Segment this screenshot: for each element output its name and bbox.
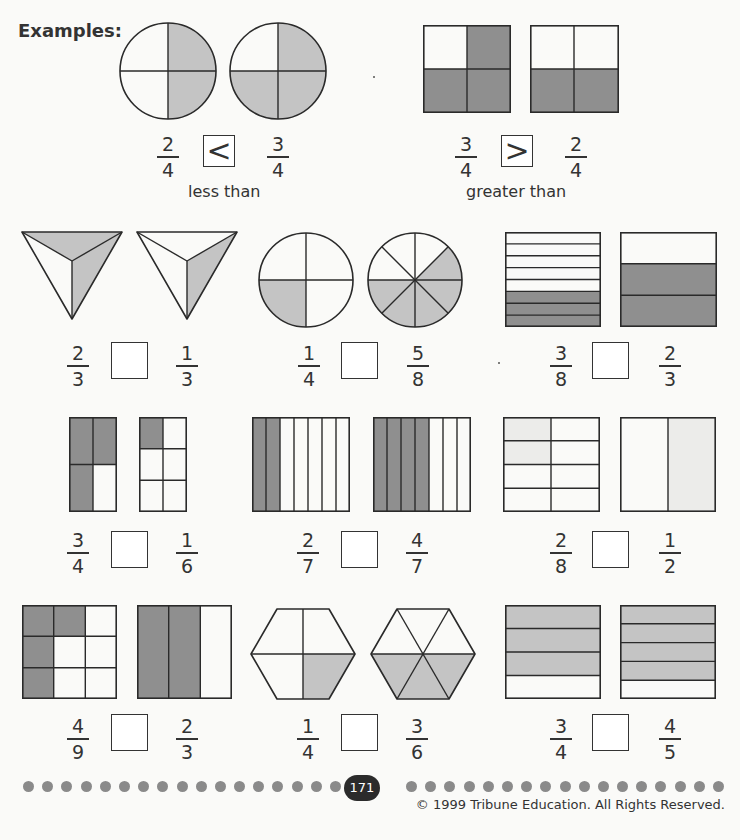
example1-comparison-box: < — [203, 135, 235, 167]
problem5-strips-right — [373, 417, 471, 512]
footer-dot — [636, 781, 647, 792]
footer-dot — [713, 781, 724, 792]
problem2-answer-box[interactable] — [341, 342, 378, 379]
example2-square-left — [423, 25, 511, 113]
footer-dot — [272, 781, 283, 792]
problem3-fraction-left: 38 — [546, 343, 576, 389]
problem5-answer-box[interactable] — [341, 531, 378, 568]
problem6-answer-box[interactable] — [592, 531, 629, 568]
problem6-grid-left — [503, 417, 600, 512]
problem4-fraction-left: 34 — [63, 530, 93, 576]
footer-dot — [694, 781, 705, 792]
problem1-answer-box[interactable] — [111, 342, 148, 379]
footer-dot — [330, 781, 341, 792]
problem7-answer-box[interactable] — [111, 714, 148, 751]
problem1-triangle-right — [137, 232, 237, 319]
problem3-bars-right — [620, 232, 717, 327]
example2-caption: greater than — [466, 182, 566, 201]
example1-circle-right — [229, 22, 327, 120]
footer-dot — [42, 781, 53, 792]
problem1-fraction-left: 23 — [63, 343, 93, 389]
footer-dot — [617, 781, 628, 792]
footer-dots-left — [23, 781, 349, 792]
footer-dot — [483, 781, 494, 792]
problem3-fraction-right: 23 — [655, 343, 685, 389]
problem9-bars-left — [505, 605, 601, 699]
problem9-fraction-left: 34 — [546, 716, 576, 762]
problem7-thirds-right — [137, 605, 232, 699]
footer-dot — [675, 781, 686, 792]
footer-dot — [311, 781, 322, 792]
problem2-fraction-right: 58 — [403, 343, 433, 389]
problem9-bars-right — [620, 605, 716, 699]
example1-fraction-right: 34 — [263, 134, 293, 180]
problem5-strips-left — [252, 417, 350, 512]
footer-dot — [598, 781, 609, 792]
print-speck — [373, 76, 375, 78]
example2-fraction-right: 24 — [561, 134, 591, 180]
problem1-triangle-left — [22, 232, 122, 319]
problem1-fraction-right: 13 — [172, 343, 202, 389]
footer-dot — [215, 781, 226, 792]
footer-dot — [138, 781, 149, 792]
example2-fraction-left: 34 — [451, 134, 481, 180]
footer-dot — [502, 781, 513, 792]
footer-dot — [234, 781, 245, 792]
footer-dot — [253, 781, 264, 792]
problem7-grid-left — [22, 605, 117, 699]
footer-dots-right — [406, 781, 732, 792]
print-speck — [498, 362, 500, 364]
footer-dot — [81, 781, 92, 792]
problem6-halves-right — [620, 417, 716, 512]
problem8-fraction-right: 36 — [402, 716, 432, 762]
footer-dot — [406, 781, 417, 792]
problem8-answer-box[interactable] — [341, 714, 378, 751]
footer-dot — [100, 781, 111, 792]
example1-circle-left — [119, 22, 217, 120]
problem5-fraction-right: 47 — [402, 530, 432, 576]
footer-dot — [464, 781, 475, 792]
copyright-notice: © 1999 Tribune Education. All Rights Res… — [416, 797, 725, 812]
problem4-answer-box[interactable] — [111, 531, 148, 568]
footer-dot — [521, 781, 532, 792]
footer-dot — [23, 781, 34, 792]
footer-dot — [177, 781, 188, 792]
problem2-fraction-left: 14 — [294, 343, 324, 389]
footer-dot — [560, 781, 571, 792]
problem9-answer-box[interactable] — [592, 714, 629, 751]
example1-caption: less than — [188, 182, 260, 201]
problem6-fraction-left: 28 — [546, 530, 576, 576]
example2-comparison-box: > — [501, 135, 533, 167]
problem9-fraction-right: 45 — [655, 716, 685, 762]
footer-dot — [119, 781, 130, 792]
problem2-circle-right — [367, 232, 463, 328]
problem5-fraction-left: 27 — [293, 530, 323, 576]
problem4-grid-left — [69, 417, 117, 512]
page-title: Examples: — [18, 20, 122, 41]
problem8-hexagon-right — [371, 609, 475, 699]
problem3-bars-left — [505, 232, 601, 327]
example1-fraction-left: 24 — [153, 134, 183, 180]
footer-dot — [196, 781, 207, 792]
problem8-fraction-left: 14 — [293, 716, 323, 762]
problem6-fraction-right: 12 — [655, 530, 685, 576]
page-number-badge: 171 — [344, 775, 380, 801]
problem4-fraction-right: 16 — [172, 530, 202, 576]
problem7-fraction-right: 23 — [172, 716, 202, 762]
example2-square-right — [530, 25, 619, 113]
footer-dot — [655, 781, 666, 792]
problem8-hexagon-left — [251, 609, 355, 699]
footer-dot — [61, 781, 72, 792]
footer-dot — [540, 781, 551, 792]
problem4-grid-right — [139, 417, 187, 512]
footer-dot — [425, 781, 436, 792]
problem3-answer-box[interactable] — [592, 342, 629, 379]
footer-dot — [579, 781, 590, 792]
footer-dot — [157, 781, 168, 792]
footer-dot — [292, 781, 303, 792]
problem2-circle-left — [258, 232, 354, 328]
problem7-fraction-left: 49 — [63, 716, 93, 762]
footer-dot — [444, 781, 455, 792]
